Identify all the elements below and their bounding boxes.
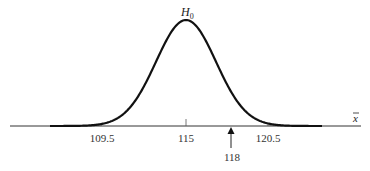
arrow-value-label: 118 xyxy=(224,151,241,163)
normal-distribution-chart: H0 x 109.5 115 120.5 118 xyxy=(0,0,370,171)
bell-curve xyxy=(50,20,322,126)
up-arrow-icon xyxy=(228,127,235,134)
tick-label-109-5: 109.5 xyxy=(90,132,115,144)
h0-subscript: 0 xyxy=(190,12,194,21)
tick-label-120-5: 120.5 xyxy=(256,132,281,144)
tick-label-115: 115 xyxy=(178,132,195,144)
h0-label: H0 xyxy=(180,5,194,21)
x-axis-label: x xyxy=(352,112,358,124)
